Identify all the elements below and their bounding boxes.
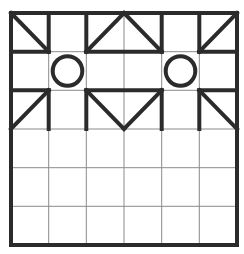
thick-segment — [124, 90, 162, 129]
grid-puzzle-diagram — [0, 0, 244, 254]
thick-segment — [11, 90, 49, 129]
circle-icon — [166, 56, 196, 86]
thick-segment — [199, 13, 237, 52]
thick-segment — [11, 13, 49, 52]
thick-segment — [86, 13, 124, 52]
circle-icon — [53, 56, 83, 86]
thick-segment — [86, 90, 124, 129]
thick-segment — [199, 90, 237, 129]
thick-segment — [124, 13, 162, 52]
